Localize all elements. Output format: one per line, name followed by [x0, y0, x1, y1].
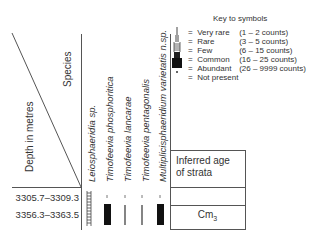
key-title: Key to symbols: [213, 14, 267, 23]
key-symbol-stack: [170, 26, 184, 76]
key-row-few: = Few(6 – 15 counts): [188, 46, 293, 55]
abundant-symbol: [157, 204, 164, 225]
key-row-not-present: = Not present: [188, 73, 238, 82]
key-row-abundant: = Abundant(26 – 9999 counts): [188, 64, 306, 73]
key-row-common: = Common(16 – 25 counts): [188, 55, 297, 64]
age-cell-0: [170, 188, 245, 206]
age-cell-1: Cm3: [170, 206, 245, 224]
few-symbol: [87, 191, 91, 226]
key-row-rare: = Rare(3 – 5 counts): [188, 37, 288, 46]
very-rare-symbols: [107, 195, 160, 198]
abundant-symbol: [104, 204, 111, 225]
key-row-very-rare: = Very rare(1 – 2 counts): [188, 28, 288, 37]
age-table: Inferred age of strata Cm3: [170, 150, 246, 230]
age-header: Inferred age of strata: [170, 151, 245, 188]
